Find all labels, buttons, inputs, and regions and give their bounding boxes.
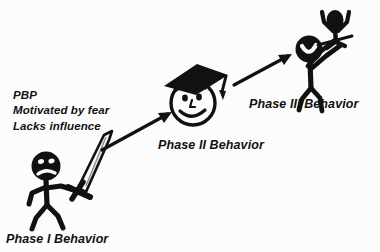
cap-tassel-tip xyxy=(219,90,226,100)
phase1-figure xyxy=(29,131,112,229)
arrow-2-shaft xyxy=(234,56,288,85)
phase2-right-eye-icon xyxy=(196,94,202,101)
sword-blade-fuller xyxy=(86,137,106,186)
phase1-right-leg xyxy=(47,205,63,228)
label-phase2-behavior: Phase II Behavior xyxy=(158,137,264,153)
cap-tassel-cord xyxy=(222,76,226,92)
sword-icon xyxy=(68,131,112,199)
phase1-torso xyxy=(46,180,47,205)
label-phase3-behavior: Phase III Behavior xyxy=(249,96,358,112)
phase1-head-icon xyxy=(32,152,61,181)
phase2-figure xyxy=(164,64,228,125)
annotation-line-2: Motivated by fear xyxy=(13,103,109,118)
annotation-line-3: Lacks influence xyxy=(13,119,109,134)
phase1-left-leg xyxy=(32,205,47,229)
annotation-note: PBP Motivated by fear Lacks influence xyxy=(13,88,109,134)
phase1-left-arm xyxy=(29,187,46,204)
phase3-lifter-head-icon xyxy=(296,36,323,63)
phase2-left-eye-icon xyxy=(182,95,188,102)
diagram-canvas: PBP Motivated by fear Lacks influence Ph… xyxy=(0,0,380,252)
arrow-phase2-to-phase3 xyxy=(234,54,292,85)
annotation-line-1: PBP xyxy=(13,88,109,103)
label-phase1-behavior: Phase I Behavior xyxy=(6,231,108,247)
